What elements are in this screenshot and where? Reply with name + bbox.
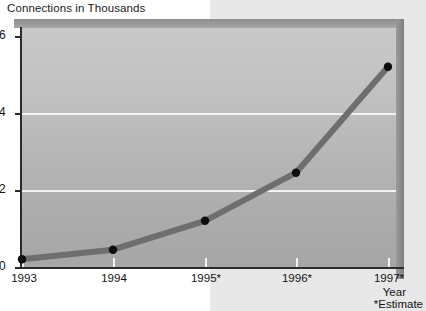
gridline-y-4 <box>21 113 396 115</box>
x-axis-caption: Year <box>383 286 406 298</box>
chart-title: Connections in Thousands <box>7 2 145 14</box>
x-tick-label-1994: 1994 <box>101 272 127 284</box>
x-tick-label-1993: 1993 <box>11 272 37 284</box>
plot-panel-top-bevel <box>14 19 404 28</box>
y-tick-label-0: 0 <box>0 259 15 273</box>
y-axis-line <box>20 27 22 268</box>
y-tick-label-6: 6 <box>0 28 15 42</box>
plot-area <box>21 27 396 268</box>
x-tick-mark-1993 <box>22 258 24 267</box>
y-tick-mark-4 <box>15 113 20 115</box>
x-tick-mark-1994 <box>113 258 115 267</box>
y-tick-mark-0 <box>15 267 20 269</box>
y-tick-label-4: 4 <box>0 105 15 119</box>
gridline-y-2 <box>21 190 396 192</box>
y-tick-mark-2 <box>15 190 20 192</box>
plot-panel-right-bevel <box>396 19 404 279</box>
x-tick-mark-1996 <box>296 258 298 267</box>
x-tick-label-1995: 1995* <box>191 272 221 284</box>
x-tick-mark-1997 <box>388 258 390 267</box>
x-axis-line <box>20 267 404 269</box>
x-tick-mark-1995 <box>205 258 207 267</box>
x-tick-label-1997: 1997* <box>374 272 404 284</box>
x-axis-footnote: *Estimate <box>374 298 423 310</box>
y-tick-mark-6 <box>15 36 20 38</box>
y-tick-label-2: 2 <box>0 182 15 196</box>
x-tick-label-1996: 1996* <box>282 272 312 284</box>
